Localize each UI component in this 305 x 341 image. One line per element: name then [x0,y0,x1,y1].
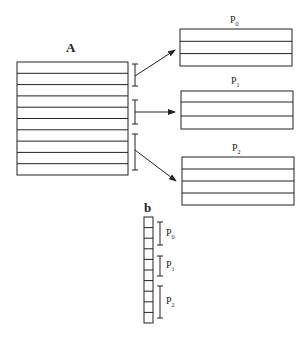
partition-label-p2: P2 [232,142,241,155]
partition-label-p1: P1 [231,75,240,88]
vector-partition-label-p0: P0 [166,227,175,240]
vector-partition-label-p1: P1 [166,259,175,272]
matrix-brackets [132,64,138,170]
arrows [135,50,176,181]
vector-brackets [157,222,163,318]
partition-p1-box [181,91,293,129]
vector-label: b [144,200,151,216]
partition-p2-box [182,157,294,205]
partition-label-p0: P0 [230,14,239,27]
diagram-canvas [0,0,305,341]
partition-p0-box [180,29,292,66]
vector-partition-label-p2: P2 [166,295,175,308]
matrix-a [17,62,128,175]
vector-b [144,217,153,323]
matrix-label: A [66,40,75,56]
